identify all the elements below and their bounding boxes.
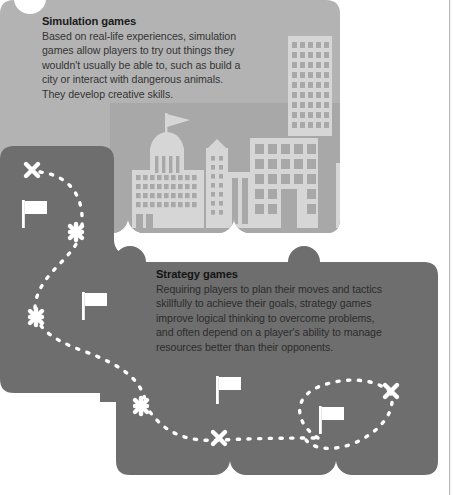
page-margin-rule (449, 0, 450, 495)
body-line: wouldn't usually be able to, such as bui… (42, 58, 272, 72)
simulation-text-block: Simulation games Based on real-life expe… (42, 14, 272, 101)
simulation-heading: Simulation games (42, 14, 272, 28)
strategy-text-block: Strategy games Requiring players to plan… (156, 267, 406, 354)
body-line: and often depend on a player's ability t… (156, 325, 406, 339)
body-line: city or interact with dangerous animals. (42, 72, 272, 86)
x-mark (70, 224, 82, 240)
body-line: improve logical thinking to overcome pro… (156, 311, 406, 325)
body-line: games allow players to try out things th… (42, 43, 272, 57)
body-line: They develop creative skills. (42, 87, 272, 101)
body-line: skillfully to achieve their goals, strat… (156, 296, 406, 310)
x-mark (135, 398, 147, 414)
infographic-stage: Simulation games Based on real-life expe… (0, 0, 464, 495)
x-mark (30, 309, 42, 325)
body-line: Based on real-life experiences, simulati… (42, 29, 272, 43)
body-line: resources better than their opponents. (156, 340, 406, 354)
strategy-heading: Strategy games (156, 267, 406, 281)
body-line: Requiring players to plan their moves an… (156, 282, 406, 296)
simulation-body: Based on real-life experiences, simulati… (42, 29, 272, 101)
strategy-body: Requiring players to plan their moves an… (156, 282, 406, 354)
